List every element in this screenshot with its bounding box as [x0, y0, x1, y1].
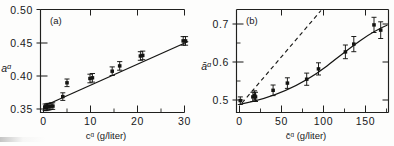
panel-a: 0.50 0.45 0.40 0.35 0 10 20 30 cᵅ (g/lit…	[1, 4, 191, 142]
panel-b-xtick-label-1: 50	[275, 115, 288, 127]
panel-a-ytick-label-3: 0.35	[10, 103, 33, 115]
panel-a-x-ticks	[44, 106, 185, 113]
panel-b-x-ticks	[240, 106, 387, 113]
panel-b-label: (b)	[246, 15, 258, 26]
scan-artifact	[0, 137, 46, 142]
panel-a-fit-line	[44, 42, 189, 107]
data-point	[117, 62, 122, 71]
panel-a-xtick-label-2: 20	[131, 115, 144, 127]
panel-a-xtick-label-3: 30	[178, 115, 191, 127]
data-point	[351, 37, 356, 52]
panel-b-xtick-label-2: 100	[314, 115, 333, 127]
panel-b-xtick-label-0: 0	[236, 115, 242, 127]
panel-b-data-points	[238, 17, 383, 104]
panel-b-ytick-label-0: 0.7	[213, 18, 229, 30]
panel-b-xtick-label-3: 150	[356, 115, 375, 127]
data-point	[271, 85, 276, 96]
figure-svg: 0.50 0.45 0.40 0.35 0 10 20 30 cᵅ (g/lit…	[0, 0, 394, 146]
panel-a-top-ticks	[91, 10, 185, 16]
panel-b-top-ticks	[282, 10, 366, 16]
panel-b-right-ticks	[383, 24, 389, 100]
panel-a-ytick-label-2: 0.40	[10, 70, 33, 82]
panel-a-yaxis-title: aᵅ	[1, 62, 12, 74]
panel-b-axes-frame	[237, 10, 389, 113]
panel-b-fit-line	[240, 25, 388, 104]
panel-b-ytick-label-1: 0.6	[213, 56, 229, 68]
data-point	[285, 78, 290, 89]
panel-b-y-ticks	[233, 24, 244, 100]
figure-container: 0.50 0.45 0.40 0.35 0 10 20 30 cᵅ (g/lit…	[0, 0, 394, 146]
panel-a-xtick-label-0: 0	[40, 115, 46, 127]
data-point	[343, 45, 348, 59]
panel-a-xtick-label-1: 10	[84, 115, 97, 127]
panel-b-yaxis-title: āᵅ	[201, 60, 212, 72]
data-point	[304, 73, 309, 85]
panel-a-ytick-label-0: 0.50	[10, 4, 33, 16]
panel-a-ytick-label-1: 0.45	[10, 37, 33, 49]
panel-b: 0.7 0.6 0.5 0 50 100 150 c̄ᵅ (g/liter) a…	[201, 10, 388, 142]
data-point	[60, 93, 65, 101]
panel-a-label: (a)	[50, 15, 62, 26]
data-point	[378, 22, 383, 39]
panel-b-xaxis-title: c̄ᵅ (g/liter)	[286, 130, 327, 141]
panel-a-y-ticks	[37, 10, 48, 110]
data-point	[65, 79, 70, 87]
panel-a-xaxis-title: cᵅ (g/liter)	[86, 130, 127, 141]
panel-b-ytick-label-2: 0.5	[213, 94, 229, 106]
